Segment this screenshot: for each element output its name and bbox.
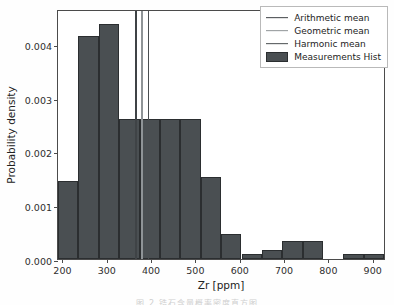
x-tick-label: 600 xyxy=(231,265,249,276)
y-axis-title: Probability density xyxy=(5,86,17,183)
x-tick-mark xyxy=(373,259,374,263)
legend-swatch xyxy=(266,38,288,50)
legend-label: Arithmetic mean xyxy=(294,13,369,23)
x-tick-label: 700 xyxy=(275,265,293,276)
chart-legend: Arithmetic meanGeometric meanHarmonic me… xyxy=(260,6,388,68)
x-tick-label: 300 xyxy=(98,265,116,276)
x-tick-label: 400 xyxy=(142,265,160,276)
histogram-bar xyxy=(221,234,241,259)
histogram-bar xyxy=(78,36,98,259)
y-tick-label: 0.003 xyxy=(25,94,52,105)
x-tick-mark xyxy=(328,259,329,263)
x-tick-label: 800 xyxy=(319,265,337,276)
y-tick-mark xyxy=(54,46,58,47)
y-tick-label: 0.002 xyxy=(25,148,52,159)
legend-label: Geometric mean xyxy=(294,26,369,36)
histogram-bar xyxy=(343,254,363,259)
legend-patch-swatch xyxy=(266,52,288,62)
y-tick-mark xyxy=(54,153,58,154)
legend-item: Geometric mean xyxy=(266,24,381,37)
legend-line-swatch xyxy=(266,17,288,19)
y-tick-label: 0.000 xyxy=(25,256,52,267)
legend-swatch xyxy=(266,25,288,37)
legend-label: Harmonic mean xyxy=(294,39,366,49)
x-tick-mark xyxy=(107,259,108,263)
y-tick-label: 0.001 xyxy=(25,202,52,213)
mean-line xyxy=(141,11,142,259)
histogram-bar xyxy=(160,119,180,259)
y-tick-mark xyxy=(54,100,58,101)
histogram-bar xyxy=(201,177,221,259)
histogram-bar xyxy=(99,24,119,259)
mean-line xyxy=(135,11,136,259)
x-tick-label: 900 xyxy=(364,265,382,276)
x-tick-mark xyxy=(195,259,196,263)
histogram-bar xyxy=(242,254,262,259)
histogram-bar xyxy=(262,250,282,259)
legend-line-swatch xyxy=(266,43,288,45)
x-axis-title: Zr [ppm] xyxy=(57,279,385,291)
histogram-bar xyxy=(282,241,302,259)
histogram-bar xyxy=(180,119,200,259)
y-tick-mark xyxy=(54,261,58,262)
mean-line xyxy=(148,11,149,259)
legend-item: Arithmetic mean xyxy=(266,11,381,24)
x-tick-label: 200 xyxy=(53,265,71,276)
x-tick-mark xyxy=(151,259,152,263)
x-tick-label: 500 xyxy=(186,265,204,276)
histogram-bar xyxy=(303,241,323,259)
y-tick-label: 0.004 xyxy=(25,40,52,51)
legend-item: Measurements Hist xyxy=(266,50,381,63)
histogram-bar xyxy=(58,181,78,259)
histogram-bar xyxy=(364,254,384,259)
x-tick-mark xyxy=(240,259,241,263)
legend-line-swatch xyxy=(266,30,288,32)
legend-swatch xyxy=(266,12,288,24)
legend-item: Harmonic mean xyxy=(266,37,381,50)
legend-label: Measurements Hist xyxy=(294,52,381,62)
figure-caption: 图 2 锆石含量概率密度直方图 xyxy=(0,297,394,305)
y-tick-mark xyxy=(54,207,58,208)
legend-swatch xyxy=(266,51,288,63)
x-tick-mark xyxy=(284,259,285,263)
x-tick-mark xyxy=(62,259,63,263)
figure-canvas: Probability density 0.0000.0010.0020.003… xyxy=(0,0,394,305)
